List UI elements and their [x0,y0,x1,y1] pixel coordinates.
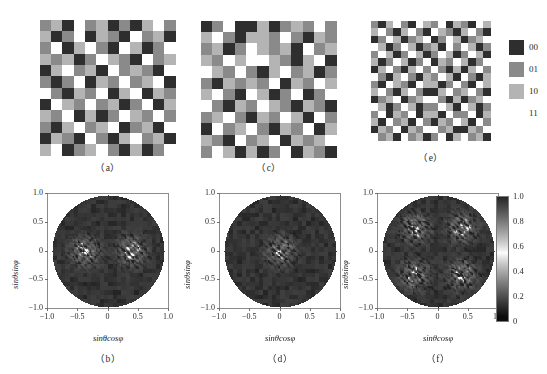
panel-b: sinθsinφ sinθcosφ （b） 1.00.50−0.5−1.0−1.… [0,185,180,374]
figure-root: （a） （c） （e） 00 01 10 11 sinθsinφ [0,0,547,374]
y-tick-label: −0.5 [189,275,215,283]
colorbar-tick-label: 0.8 [513,217,524,226]
x-tick-label: 0 [422,313,454,321]
phase-level-legend: 00 01 10 11 [509,36,538,124]
y-tick-label: 1.0 [347,189,373,197]
x-tick-mark [280,308,281,311]
y-tick-label: 0.5 [17,218,43,226]
y-tick-label: −0.5 [347,275,373,283]
x-tick-mark [47,308,48,311]
y-tick-label: −1.0 [347,304,373,312]
legend-swatch-10 [509,84,524,99]
x-tick-label: 0.5 [294,313,326,321]
y-tick-label: 1.0 [189,189,215,197]
x-tick-mark [468,308,469,311]
panel-caption-c: （c） [201,160,337,174]
y-tick-mark [45,279,48,280]
legend-label-10: 10 [529,87,538,96]
panel-caption-b: （b） [47,351,169,365]
legend-swatch-00 [509,40,524,55]
colorbar-tick-label: 0 [513,317,517,326]
legend-item: 11 [509,102,538,124]
plot-frame-b [47,193,169,309]
colorbar-tick-label: 0.4 [513,267,524,276]
legend-item: 10 [509,80,538,102]
x-tick-label: −0.5 [233,313,265,321]
panel-a-grid [40,20,176,156]
x-tick-mark [438,308,439,311]
x-tick-label: −1.0 [361,313,393,321]
panel-d: sinθsinφ sinθcosφ （d） 1.00.50−0.5−1.0−1.… [172,185,352,374]
x-tick-label: −1.0 [203,313,235,321]
x-tick-mark [168,308,169,311]
y-tick-label: 0.5 [347,218,373,226]
quaternary-grid-canvas-e [371,21,491,141]
colorbar-tick-label: 0.6 [513,242,524,251]
x-axis-label-b: sinθcosφ [47,333,169,343]
plot-frame-d [219,193,341,309]
y-tick-mark [217,222,220,223]
y-tick-mark [375,193,378,194]
colorbar-gradient [496,196,509,322]
legend-item: 00 [509,36,538,58]
y-tick-mark [217,279,220,280]
x-tick-label: −0.5 [391,313,423,321]
y-tick-label: 0 [17,247,43,255]
x-tick-label: −1.0 [31,313,63,321]
legend-item: 01 [509,58,538,80]
y-tick-label: 0.5 [189,218,215,226]
panel-c-grid [201,21,337,158]
panel-caption-e: （e） [371,150,491,164]
x-tick-label: 0.5 [122,313,154,321]
legend-label-01: 01 [529,65,538,74]
y-tick-label: 1.0 [17,189,43,197]
x-tick-mark [407,308,408,311]
y-tick-mark [217,193,220,194]
far-field-canvas-f [378,194,498,308]
panel-caption-a: （a） [40,160,176,174]
far-field-canvas-b [48,194,168,308]
legend-label-00: 00 [529,43,538,52]
x-tick-mark [219,308,220,311]
intensity-colorbar: 1.00.80.60.40.20 [496,196,509,322]
y-tick-mark [217,251,220,252]
x-tick-label: 0 [92,313,124,321]
colorbar-tick-label: 1.0 [513,192,524,201]
y-tick-label: −1.0 [17,304,43,312]
y-tick-mark [375,251,378,252]
x-tick-mark [138,308,139,311]
y-tick-mark [375,222,378,223]
x-tick-mark [310,308,311,311]
panel-e-grid [371,21,491,141]
y-tick-label: −0.5 [17,275,43,283]
panel-caption-d: （d） [219,351,341,365]
x-tick-mark [77,308,78,311]
x-tick-mark [377,308,378,311]
x-tick-mark [108,308,109,311]
quaternary-grid-canvas-c [201,21,337,158]
x-tick-label: −0.5 [61,313,93,321]
panel-caption-f: （f） [377,351,499,365]
y-tick-mark [45,251,48,252]
y-tick-label: 0 [189,247,215,255]
x-axis-label-f: sinθcosφ [377,333,499,343]
y-tick-mark [375,279,378,280]
y-tick-mark [45,222,48,223]
panel-f: sinθsinφ sinθcosφ （f） 1.00.50−0.5−1.0−1.… [330,185,510,374]
y-tick-mark [45,193,48,194]
y-tick-label: 0 [347,247,373,255]
y-tick-label: −1.0 [189,304,215,312]
plot-frame-f [377,193,499,309]
x-tick-label: 0 [264,313,296,321]
quaternary-grid-canvas-a [40,20,176,156]
legend-label-11: 11 [529,109,538,118]
x-tick-mark [249,308,250,311]
x-tick-label: 0.5 [452,313,484,321]
far-field-canvas-d [220,194,340,308]
legend-swatch-01 [509,62,524,77]
colorbar-tick-label: 0.2 [513,292,524,301]
legend-swatch-11 [509,106,524,121]
x-axis-label-d: sinθcosφ [219,333,341,343]
